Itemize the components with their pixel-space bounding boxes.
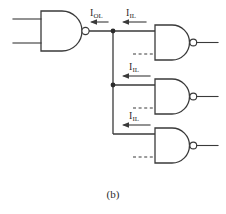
load-3-gate-body xyxy=(155,128,190,163)
load-2-gate-body xyxy=(155,79,190,114)
iil-3-symbol: I xyxy=(129,110,133,121)
arrow-head-iil-3 xyxy=(122,122,129,128)
load-1-gate-body xyxy=(155,25,190,60)
load-3-output-bubble-icon xyxy=(190,142,197,149)
load-2-output-bubble-icon xyxy=(190,93,197,100)
load-nand-gate-1 xyxy=(133,25,218,60)
driver-nand-gate xyxy=(13,11,89,51)
figure-caption: (b) xyxy=(0,188,226,200)
iil-3-subscript: IL xyxy=(133,115,140,123)
arrow-head-iil-2 xyxy=(122,73,129,79)
driver-output-bubble-icon xyxy=(82,27,89,34)
arrow-head-iil-1 xyxy=(122,19,129,25)
figure-container: IOL IIL IIL IIL (b) xyxy=(0,0,226,214)
load-nand-gate-2 xyxy=(133,79,218,114)
junction-dot-middle xyxy=(111,83,116,88)
arrow-head-iol xyxy=(90,19,97,25)
label-input-current-iil-1: IIL xyxy=(126,8,136,18)
current-arrows xyxy=(90,19,150,128)
label-output-current-iol: IOL xyxy=(90,8,103,18)
iil-2-subscript: IL xyxy=(133,66,140,74)
iol-subscript: OL xyxy=(94,12,103,20)
label-input-current-iil-2: IIL xyxy=(129,62,139,72)
load-nand-gate-3 xyxy=(133,128,218,163)
label-input-current-iil-3: IIL xyxy=(129,111,139,121)
iil-2-symbol: I xyxy=(129,61,133,72)
iol-symbol: I xyxy=(90,7,94,18)
load-1-output-bubble-icon xyxy=(190,39,197,46)
circuit-schematic xyxy=(0,0,226,214)
driver-gate-body xyxy=(41,11,82,51)
junction-dot-top xyxy=(111,29,116,34)
iil-1-symbol: I xyxy=(126,7,130,18)
fanout-bus xyxy=(89,29,155,134)
iil-1-subscript: IL xyxy=(130,12,137,20)
